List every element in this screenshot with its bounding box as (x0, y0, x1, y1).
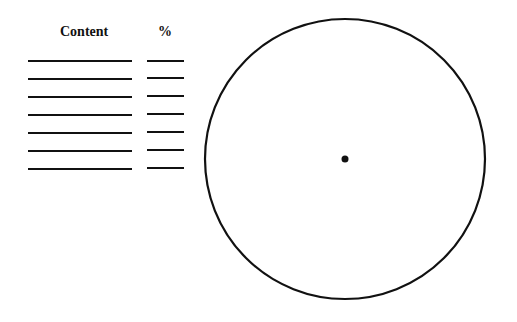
center-dot (342, 156, 349, 163)
blank-pie-chart (0, 0, 517, 322)
